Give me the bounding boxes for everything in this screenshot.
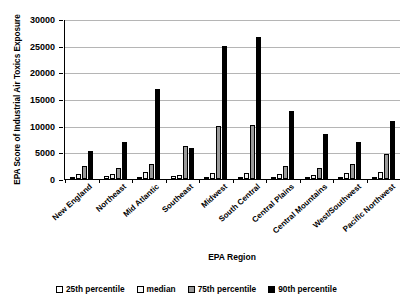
legend-swatch: [56, 286, 63, 293]
bar: [110, 174, 115, 179]
bar: [216, 126, 221, 179]
bar-group: [132, 20, 166, 179]
y-axis-tick-label: 0: [50, 175, 55, 185]
x-axis-title: EPA Region: [64, 252, 400, 262]
bar: [289, 111, 294, 179]
bar: [155, 89, 160, 179]
legend-item: 25th percentile: [56, 284, 125, 294]
y-axis-tick-label: 30000: [30, 15, 55, 25]
bar: [76, 174, 81, 179]
y-axis-tick: [59, 73, 63, 74]
legend-item: median: [137, 284, 176, 294]
y-axis-tick-label: 5000: [35, 148, 55, 158]
y-axis-tick: [59, 180, 63, 181]
y-axis-tick-label: 25000: [30, 42, 55, 52]
bar-group: [233, 20, 267, 179]
bar: [222, 46, 227, 179]
bar-group: [199, 20, 233, 179]
legend-label: 75th percentile: [198, 284, 257, 294]
legend-label: median: [147, 284, 176, 294]
bar: [311, 175, 316, 179]
bar: [177, 175, 182, 179]
x-axis-tick-labels: New EnglandNortheastMid AtlanticSoutheas…: [64, 182, 400, 250]
bar: [277, 174, 282, 179]
plot-area: [64, 20, 400, 180]
bar: [116, 168, 121, 179]
y-axis-tick: [59, 127, 63, 128]
bar: [317, 168, 322, 179]
y-axis-tick-labels: 050001000015000200002500030000: [0, 0, 62, 182]
legend-item: 75th percentile: [188, 284, 257, 294]
legend-swatch: [188, 286, 195, 293]
bar-groups: [65, 20, 400, 179]
y-axis-tick: [59, 100, 63, 101]
y-axis-tick-label: 15000: [30, 95, 55, 105]
bar: [256, 37, 261, 179]
bar-group: [65, 20, 99, 179]
legend-label: 90th percentile: [278, 284, 337, 294]
bar: [250, 125, 255, 179]
legend-swatch: [268, 286, 275, 293]
y-axis-tick: [59, 20, 63, 21]
legend-label: 25th percentile: [66, 284, 125, 294]
legend-item: 90th percentile: [268, 284, 337, 294]
bar-chart: EPA Score of Industrial Air Toxics Expos…: [0, 0, 406, 306]
legend-swatch: [137, 286, 144, 293]
bar: [82, 166, 87, 179]
bar: [88, 151, 93, 179]
bar: [70, 177, 75, 179]
y-axis-tick-label: 10000: [30, 122, 55, 132]
y-axis-tick-label: 20000: [30, 68, 55, 78]
y-axis-tick: [59, 47, 63, 48]
bar-group: [166, 20, 200, 179]
chart-legend: 25th percentilemedian75th percentile90th…: [56, 281, 356, 297]
y-axis-tick: [59, 153, 63, 154]
